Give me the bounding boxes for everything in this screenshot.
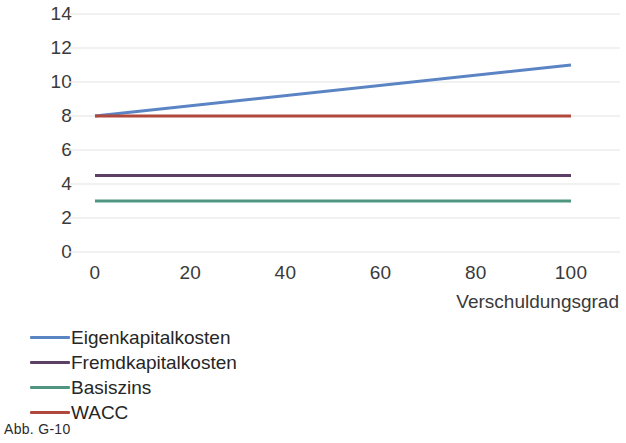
x-axis-tick-label: 40 (255, 262, 315, 284)
series-lines (95, 65, 571, 201)
legend-swatch-icon (30, 411, 70, 414)
legend-item-label: Eigenkapitalkosten (71, 327, 231, 348)
legend-swatch-icon (30, 361, 70, 364)
x-axis-tick-label: 60 (351, 262, 411, 284)
legend-swatch-icon (30, 386, 70, 389)
line-chart-svg (0, 0, 626, 262)
chart-plot-area: 02468101214 (0, 0, 626, 262)
x-axis-title: Verschuldungsgrad (0, 291, 619, 313)
legend-item-eigenkapitalkosten[interactable]: Eigenkapitalkosten (0, 325, 626, 350)
x-axis-tick-label: 80 (446, 262, 506, 284)
x-axis-tick-labels: 020406080100 (0, 262, 626, 288)
gridlines (69, 14, 620, 252)
figure-abb-g-10: 02468101214 020406080100 Verschuldungsgr… (0, 0, 626, 443)
legend-item-label: Fremdkapitalkosten (71, 352, 237, 373)
series-line-eigenkapitalkosten (95, 65, 571, 116)
legend-item-label: WACC (71, 402, 128, 423)
x-axis-tick-label: 100 (541, 262, 601, 284)
chart-legend: EigenkapitalkostenFremdkapitalkostenBasi… (0, 325, 626, 425)
legend-item-basiszins[interactable]: Basiszins (0, 375, 626, 400)
legend-item-fremdkapitalkosten[interactable]: Fremdkapitalkosten (0, 350, 626, 375)
legend-swatch-icon (30, 336, 70, 339)
legend-item-wacc[interactable]: WACC (0, 400, 626, 425)
x-axis-tick-label: 0 (65, 262, 125, 284)
legend-item-label: Basiszins (71, 377, 151, 398)
x-axis-tick-label: 20 (160, 262, 220, 284)
figure-caption: Abb. G-10 (4, 421, 71, 437)
